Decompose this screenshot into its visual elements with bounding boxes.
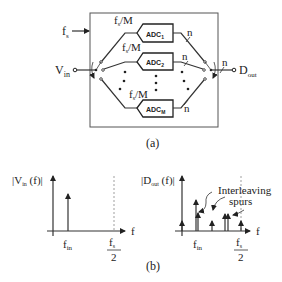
caption-a: (a) — [146, 136, 159, 150]
output-bits-label: n — [222, 56, 228, 68]
bits-label-2: n — [182, 50, 188, 62]
figure: fs Vin ADC1 fs/M ADC2 fs/M — [0, 0, 282, 282]
right-tick-fs-num: fs — [236, 236, 243, 249]
adc-m: ADCM fs/M — [129, 88, 173, 117]
adc-1: ADC1 fs/M — [114, 14, 173, 42]
right-tick-fs-den: 2 — [238, 251, 244, 263]
bits-label-m: n — [184, 102, 190, 114]
ti-adc-block-diagram: fs Vin ADC1 fs/M ADC2 fs/M — [55, 13, 257, 150]
adc-2-rate: fs/M — [122, 41, 141, 54]
input-label: Vin — [55, 63, 70, 79]
bits-label-1: n — [187, 26, 193, 38]
left-tick-fs-den: 2 — [111, 251, 117, 263]
output-spectrum-plot: Interleaving spurs |Dout (f)| f fin fs 2 — [141, 174, 272, 263]
right-ylabel: |Dout (f)| — [141, 174, 175, 187]
left-tick-fs-num: fs — [109, 236, 116, 249]
clock-label: fs — [62, 24, 69, 40]
output-terminal — [232, 68, 236, 72]
left-ylabel: |Vin (f)| — [12, 174, 43, 187]
caption-b: (b) — [146, 259, 160, 273]
output-label: Dout — [239, 63, 257, 79]
input-terminal — [73, 68, 77, 72]
adc-1-rate: fs/M — [114, 14, 133, 27]
adc-m-rate: fs/M — [129, 88, 148, 101]
adc-2: ADC2 fs/M — [122, 41, 173, 70]
left-xlabel: f — [131, 225, 135, 237]
right-tick-fin: fin — [193, 238, 203, 252]
right-xlabel: f — [256, 225, 260, 237]
left-tick-fin: fin — [63, 238, 73, 252]
input-spectrum-plot: |Vin (f)| f fin fs 2 — [12, 174, 135, 263]
annotation-spurs: spurs — [229, 195, 252, 207]
